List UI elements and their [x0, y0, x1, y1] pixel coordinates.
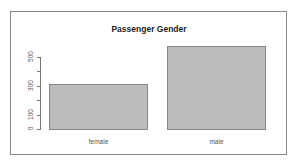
x-tick-label-male: male — [167, 138, 266, 145]
y-tick — [37, 115, 40, 116]
chart-title: Passenger Gender — [0, 24, 298, 34]
y-axis-line — [40, 57, 41, 130]
y-tick — [37, 100, 40, 101]
y-tick-label: 500 — [27, 47, 34, 67]
x-tick-label-female: female — [49, 138, 148, 145]
y-tick — [37, 86, 40, 87]
bar-male — [167, 46, 266, 130]
y-tick-label: 300 — [27, 75, 34, 95]
y-tick-label: 100 — [27, 104, 34, 124]
y-tick — [37, 57, 40, 58]
y-tick — [37, 71, 40, 72]
y-tick — [37, 129, 40, 130]
bar-female — [49, 84, 148, 130]
